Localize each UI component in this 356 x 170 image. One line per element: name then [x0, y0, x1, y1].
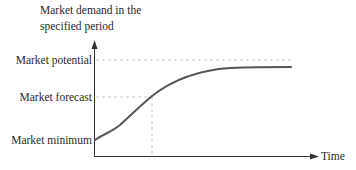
- y-axis-arrow-icon: [92, 40, 98, 49]
- demand-curve: [95, 67, 291, 140]
- x-axis-arrow-icon: [310, 154, 319, 160]
- diagram-graphics: [0, 0, 356, 170]
